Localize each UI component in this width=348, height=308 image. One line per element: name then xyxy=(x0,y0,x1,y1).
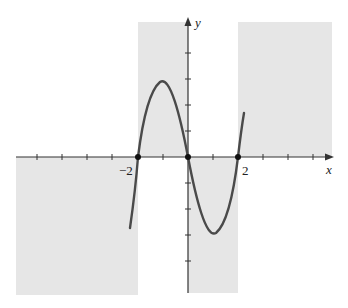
y-axis-label: y xyxy=(193,15,201,30)
shade-region-mid-negative xyxy=(188,157,238,293)
zero-point-pos2 xyxy=(235,154,241,160)
x-axis-label: x xyxy=(325,162,332,177)
tick-label-pos2: 2 xyxy=(242,163,249,178)
shade-region-right-positive xyxy=(238,22,332,157)
cubic-graph: y x −2 2 xyxy=(0,0,348,308)
y-axis-arrow-icon xyxy=(185,17,192,26)
shade-region-mid-positive xyxy=(138,22,188,157)
tick-label-neg2: −2 xyxy=(119,163,133,178)
zero-point-neg2 xyxy=(135,154,141,160)
zero-point-origin xyxy=(185,154,191,160)
